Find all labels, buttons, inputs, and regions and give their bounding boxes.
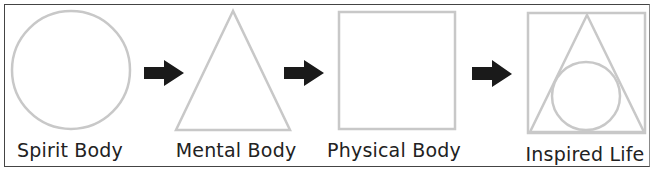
arrow-right-icon [284,60,324,86]
spirit-circle-icon [12,11,130,129]
mental-triangle-icon [176,11,290,130]
stage-label-spirit: Spirit Body [17,139,123,161]
stage-label-inspired: Inspired Life [526,143,645,165]
arrow-right-icon [144,60,184,86]
stage-label-physical: Physical Body [327,139,461,161]
physical-square-icon [339,12,455,129]
inspired-composite-icon [528,13,645,133]
arrow-right-icon [472,60,512,87]
stage-label-mental: Mental Body [176,139,297,161]
